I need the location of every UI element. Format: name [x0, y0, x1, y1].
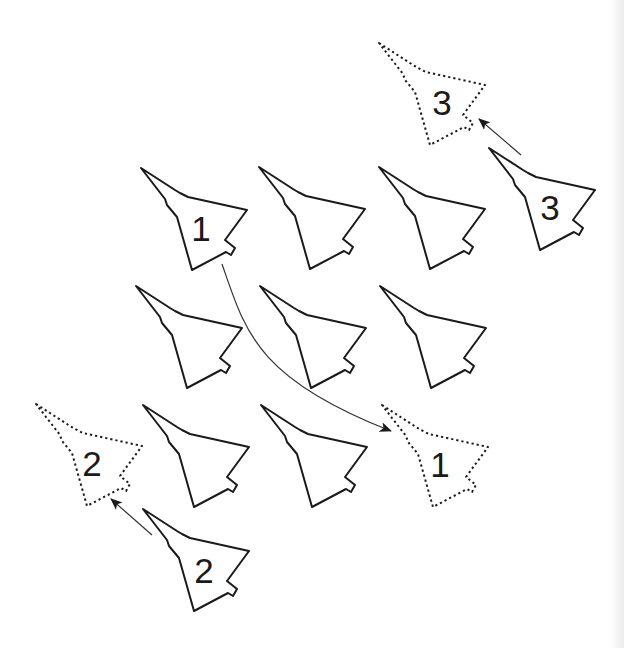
jet-outline-icon: [259, 167, 365, 269]
diagram-canvas: 1 1 2: [0, 0, 624, 648]
formation-jet: [259, 167, 365, 269]
jet-3: 3: [489, 148, 595, 250]
jet-label: 1: [191, 209, 210, 248]
target-label: 1: [430, 445, 449, 484]
formation-jet: [379, 167, 485, 269]
jet-outline-icon: [136, 286, 242, 388]
formation-jet: [380, 286, 486, 388]
target-jet-1: 1: [382, 405, 488, 507]
jet-outline-icon: [379, 167, 485, 269]
jet-outline-icon: [143, 405, 249, 507]
target-label: 2: [82, 444, 101, 483]
jet-outline-icon: [380, 286, 486, 388]
move-arrow-2: [111, 499, 152, 535]
jet-outline-icon: [261, 405, 367, 507]
formation-diagram: 1 1 2: [0, 0, 624, 648]
jet-2: 2: [143, 509, 249, 611]
formation-jet: [136, 286, 242, 388]
target-jet-2: 2: [36, 404, 142, 506]
formation-jet: [261, 405, 367, 507]
target-jet-3: 3: [379, 43, 485, 145]
target-label: 3: [432, 83, 451, 122]
jet-label: 3: [540, 188, 559, 227]
move-arrow-3: [479, 119, 521, 155]
formation-jet: [143, 405, 249, 507]
jet-outline-icon: [260, 286, 366, 388]
formation-jet: [260, 286, 366, 388]
jet-label: 2: [194, 551, 213, 590]
jet-1: 1: [141, 168, 247, 270]
edge-shade: [610, 0, 624, 648]
